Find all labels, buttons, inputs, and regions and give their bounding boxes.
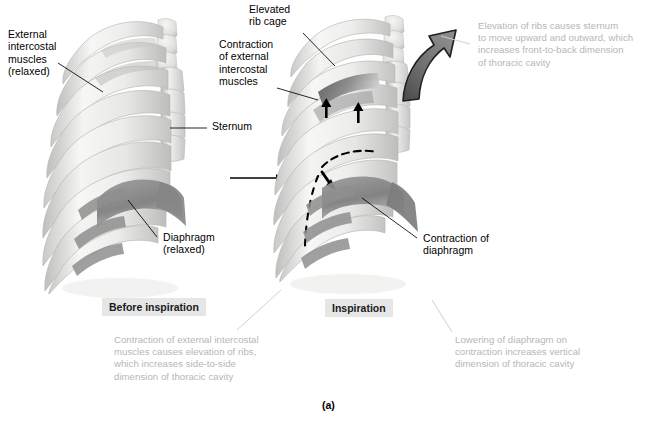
label-external-intercostal-relaxed: External intercostal muscles (relaxed) (8, 28, 100, 78)
curved-up-arrow-icon-sternum (403, 30, 456, 101)
annotation-sternum-movement: Elevation of ribs causes sternum to move… (478, 20, 656, 69)
label-elevated-rib-cage: Elevated rib cage (249, 3, 323, 28)
respiration-mechanics-figure: External intercostal muscles (relaxed) S… (0, 0, 658, 424)
annotation-vertical-dimension: Lowering of diaphragm on contraction inc… (455, 334, 635, 371)
caption-inspiration: Inspiration (325, 299, 393, 317)
panel-letter: (a) (322, 399, 335, 411)
label-contraction-external-intercostal: Contraction of external intercostal musc… (219, 38, 299, 88)
annotation-side-to-side-dimension: Contraction of external intercostal musc… (114, 334, 314, 383)
label-contraction-diaphragm: Contraction of diaphragm (423, 232, 533, 257)
label-diaphragm-relaxed: Diaphragm (relaxed) (163, 231, 253, 256)
caption-before-inspiration: Before inspiration (102, 298, 206, 316)
label-sternum: Sternum (212, 120, 282, 132)
